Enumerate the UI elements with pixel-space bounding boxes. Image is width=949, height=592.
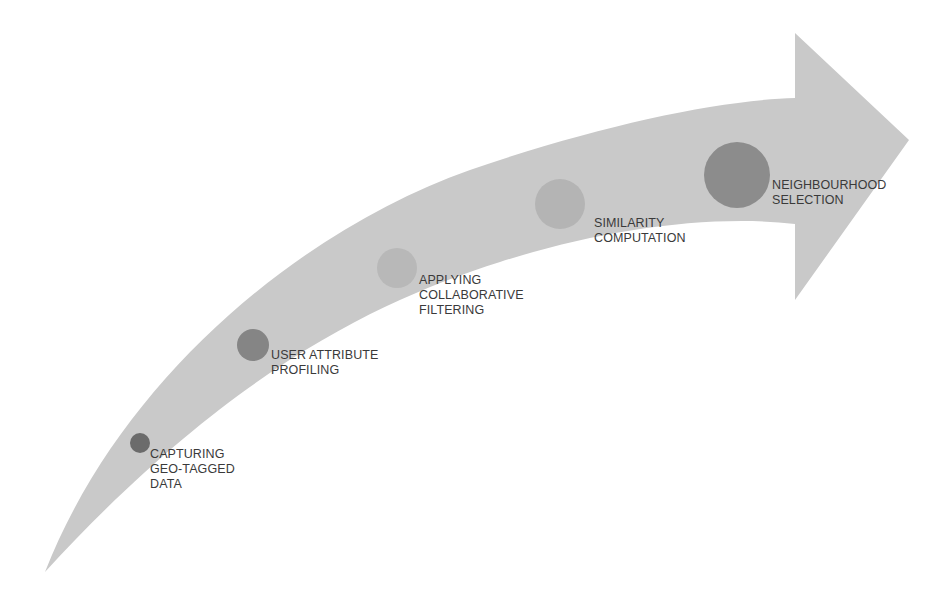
step-2-circle-icon	[237, 329, 269, 361]
step-label-line: PROFILING	[271, 363, 378, 378]
step-label-line: FILTERING	[419, 303, 524, 318]
step-4-circle-icon	[535, 179, 585, 229]
step-label-line: NEIGHBOURHOOD	[772, 178, 887, 193]
step-label-line: SIMILARITY	[594, 216, 686, 231]
step-label-line: APPLYING	[419, 273, 524, 288]
step-1-circle-icon	[130, 433, 150, 453]
process-diagram: CAPTURINGGEO-TAGGEDDATAUSER ATTRIBUTEPRO…	[0, 0, 949, 592]
step-5-label: NEIGHBOURHOODSELECTION	[772, 178, 887, 208]
step-label-line: SELECTION	[772, 193, 887, 208]
step-3-circle-icon	[377, 248, 417, 288]
step-5-circle-icon	[704, 142, 770, 208]
step-2-label: USER ATTRIBUTEPROFILING	[271, 348, 378, 378]
step-label-line: COMPUTATION	[594, 231, 686, 246]
step-label-line: USER ATTRIBUTE	[271, 348, 378, 363]
step-4-label: SIMILARITYCOMPUTATION	[594, 216, 686, 246]
step-label-line: DATA	[150, 477, 235, 492]
step-label-line: GEO-TAGGED	[150, 462, 235, 477]
step-label-line: CAPTURING	[150, 447, 235, 462]
step-3-label: APPLYINGCOLLABORATIVEFILTERING	[419, 273, 524, 318]
step-1-label: CAPTURINGGEO-TAGGEDDATA	[150, 447, 235, 492]
step-label-line: COLLABORATIVE	[419, 288, 524, 303]
